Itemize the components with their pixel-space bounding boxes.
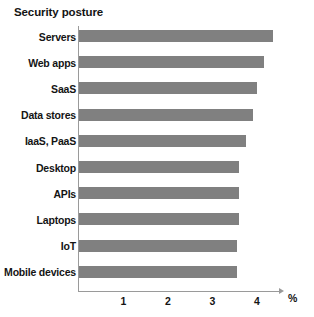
category-label: IaaS, PaaS: [25, 135, 76, 147]
category-label: Servers: [39, 31, 76, 43]
bar: [79, 161, 239, 173]
bar: [79, 109, 253, 121]
bar-fill: [79, 82, 257, 94]
bar: [79, 213, 239, 225]
bar-fill: [79, 240, 237, 252]
bar-fill: [79, 56, 264, 68]
chart-container: Security posture ServersWeb appsSaaSData…: [0, 0, 314, 317]
x-tick-label: 3: [203, 295, 223, 307]
x-axis-arrow-icon: [279, 288, 284, 294]
bar-fill: [79, 213, 239, 225]
plot-area: ServersWeb appsSaaSData storesIaaS, PaaS…: [0, 0, 314, 317]
bar: [79, 187, 239, 199]
bar: [79, 135, 246, 147]
x-tick-label: 2: [158, 295, 178, 307]
category-label: Laptops: [37, 214, 76, 226]
category-label: SaaS: [51, 83, 76, 95]
x-axis-unit-label: %: [288, 292, 297, 304]
bar-fill: [79, 161, 239, 173]
bar-fill: [79, 109, 253, 121]
x-tick-label: 1: [114, 295, 134, 307]
bar-fill: [79, 187, 239, 199]
bar-fill: [79, 266, 237, 278]
x-axis-line: [78, 291, 282, 292]
category-label: Data stores: [21, 109, 76, 121]
x-tick-label: 4: [247, 295, 267, 307]
bar-fill: [79, 135, 246, 147]
bar: [79, 30, 273, 42]
bar: [79, 82, 257, 94]
category-label: IoT: [61, 240, 76, 252]
category-label: APIs: [53, 188, 76, 200]
category-label: Web apps: [28, 57, 76, 69]
bar: [79, 266, 237, 278]
category-label: Desktop: [36, 162, 76, 174]
bar: [79, 56, 264, 68]
bar: [79, 240, 237, 252]
category-label: Mobile devices: [4, 266, 76, 278]
bar-fill: [79, 30, 273, 42]
